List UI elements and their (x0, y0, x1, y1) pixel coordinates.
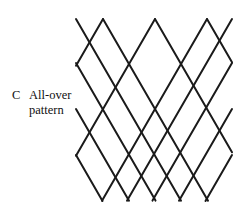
all-over-pattern-figure: C All-over pattern (0, 0, 250, 218)
figure-caption-text: All-over pattern (29, 88, 71, 118)
caption-line-1: All-over (29, 88, 71, 103)
figure-caption: C All-over pattern (12, 88, 92, 118)
figure-label-letter: C (12, 88, 29, 103)
caption-line-2: pattern (29, 103, 71, 118)
